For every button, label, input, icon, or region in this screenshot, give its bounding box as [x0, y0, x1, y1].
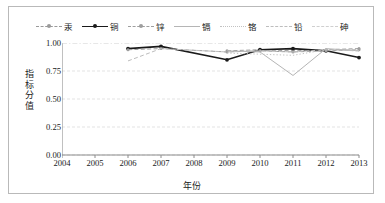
data-point-铜: [291, 47, 295, 51]
chart-canvas: [62, 43, 369, 163]
chart-frame: 汞铜锌镉铬铅砷 指标分值 0.000.250.500.751.00 200420…: [8, 6, 374, 194]
data-point-铜: [357, 56, 361, 60]
data-point-铜: [225, 58, 229, 62]
plot-area: [62, 43, 359, 155]
data-point-锌: [127, 48, 130, 51]
x-axis-title: 年份: [9, 179, 375, 192]
